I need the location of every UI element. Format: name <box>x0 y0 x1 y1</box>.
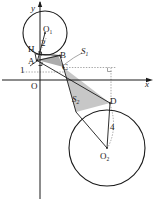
point-o1-label: O1 <box>43 25 52 35</box>
segment-1-label: 1 <box>20 66 25 75</box>
geometry-figure-canvas: y x O O1 O2 2 4 1 H A B C D S1 S2 <box>0 0 157 201</box>
radius-1-label: 2 <box>41 39 46 48</box>
x-axis-label: x <box>145 80 149 89</box>
point-a-dot <box>36 60 38 62</box>
point-d-label: D <box>110 97 117 106</box>
y-axis-label: y <box>31 4 35 13</box>
region-s2-label: S2 <box>72 95 79 105</box>
radius-2-label: 4 <box>110 123 115 132</box>
point-o2-label: O2 <box>100 152 109 162</box>
point-h-label: H <box>28 45 35 54</box>
region-s1-label: S1 <box>81 47 88 57</box>
point-a-label: A <box>28 57 35 66</box>
segment-tangentpoint-o2 <box>76 112 107 148</box>
point-c-label: C <box>62 63 68 72</box>
origin-label: O <box>31 82 38 91</box>
y-axis-arrowhead <box>38 1 42 7</box>
point-b-label: B <box>60 51 66 60</box>
